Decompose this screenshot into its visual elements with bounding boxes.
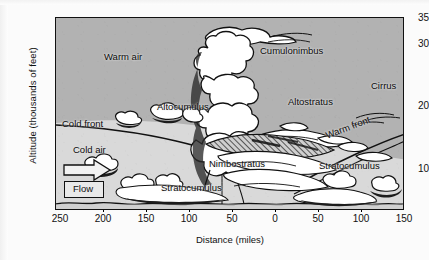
label-nimbostratus: Nimbostratus bbox=[209, 158, 265, 169]
label-cold-front: Cold front bbox=[62, 118, 103, 129]
x-tick-label-200l: 200 bbox=[95, 213, 112, 224]
page-edge-top bbox=[0, 0, 429, 5]
label-cirrus: Cirrus bbox=[371, 80, 396, 91]
y-tick-label-20: 20 bbox=[403, 100, 429, 111]
cross-section-artwork bbox=[56, 18, 404, 210]
x-tick-label-250l: 250 bbox=[52, 213, 69, 224]
label-stratocumulus-left: Stratocumulus bbox=[161, 182, 222, 193]
label-warm-air: Warm air bbox=[104, 51, 142, 62]
x-tick-label-50r: 50 bbox=[312, 213, 323, 224]
y-axis-title: Altitude (thousands of feet) bbox=[27, 6, 38, 206]
y-tick-label-35: 35 bbox=[403, 12, 429, 23]
x-tick-label-100l: 100 bbox=[181, 213, 198, 224]
figure-page: Altitude (thousands of feet) 35 30 20 10… bbox=[0, 0, 429, 260]
cross-section-plot: Warm air Cold front Cold air Altocumulus… bbox=[55, 17, 404, 210]
x-tick-label-0: 0 bbox=[272, 213, 278, 224]
y-tick-label-30: 30 bbox=[403, 38, 429, 49]
x-tick-label-100r: 100 bbox=[353, 213, 370, 224]
x-axis-title: Distance (miles) bbox=[55, 234, 405, 245]
y-tick-label-10: 10 bbox=[403, 163, 429, 174]
label-altocumulus: Altocumulus bbox=[157, 101, 209, 112]
flow-label: Flow bbox=[64, 181, 102, 196]
x-tick-label-50l: 50 bbox=[226, 213, 237, 224]
x-tick-label-150l: 150 bbox=[138, 213, 155, 224]
x-tick-label-150r: 150 bbox=[396, 213, 413, 224]
label-altostratus: Altostratus bbox=[288, 96, 333, 107]
label-cumulonimbus: Cumulonimbus bbox=[260, 45, 323, 56]
label-stratocumulus-right: Stratocumulus bbox=[319, 160, 380, 171]
page-edge-left bbox=[0, 0, 8, 260]
label-cold-air: Cold air bbox=[73, 144, 106, 155]
